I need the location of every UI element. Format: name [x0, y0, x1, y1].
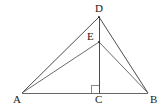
geometry-canvas — [0, 0, 168, 112]
geometry-figure: A B C D E — [0, 0, 168, 112]
vertex-dot-D — [98, 16, 100, 18]
vertex-label-A: A — [13, 94, 21, 105]
right-angle-marker-icon — [91, 85, 99, 93]
segment-BE — [99, 42, 148, 93]
vertex-label-B: B — [150, 94, 157, 105]
segment-AD — [22, 17, 99, 93]
segment-BD — [99, 17, 148, 93]
vertex-label-E: E — [87, 31, 94, 42]
segment-AE — [22, 42, 99, 93]
vertex-dot-E — [98, 41, 100, 43]
vertex-label-C: C — [95, 94, 102, 105]
vertex-label-D: D — [95, 3, 103, 14]
